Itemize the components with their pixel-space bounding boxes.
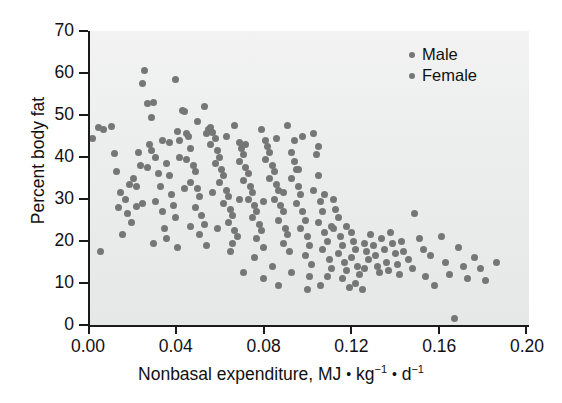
data-point bbox=[271, 196, 278, 203]
data-point bbox=[427, 252, 434, 259]
data-point bbox=[194, 118, 201, 125]
data-point bbox=[157, 183, 164, 190]
data-point bbox=[471, 254, 478, 261]
data-point bbox=[192, 168, 199, 175]
data-point bbox=[280, 240, 287, 247]
data-point bbox=[367, 231, 374, 238]
legend-item-male: Male bbox=[409, 44, 477, 65]
data-point bbox=[144, 164, 151, 171]
data-point bbox=[266, 175, 273, 182]
legend-label: Male bbox=[422, 45, 458, 64]
data-point bbox=[284, 122, 291, 129]
data-point bbox=[339, 242, 346, 249]
scatter-plot-figure: Percent body fat 010203040506070 0.000.0… bbox=[0, 0, 562, 403]
data-point bbox=[262, 156, 269, 163]
data-point bbox=[269, 263, 276, 270]
y-axis-tick-label: 70 bbox=[0, 20, 74, 41]
x-axis-tick-label: 0.16 bbox=[422, 336, 456, 357]
data-point bbox=[288, 269, 295, 276]
data-point bbox=[194, 185, 201, 192]
data-point bbox=[242, 141, 249, 148]
data-point bbox=[155, 170, 162, 177]
data-point bbox=[482, 277, 489, 284]
data-point bbox=[385, 267, 392, 274]
data-point bbox=[291, 137, 298, 144]
data-point bbox=[119, 231, 126, 238]
data-point bbox=[299, 208, 306, 215]
data-point bbox=[209, 189, 216, 196]
data-point bbox=[387, 229, 394, 236]
data-point bbox=[166, 172, 173, 179]
data-point bbox=[455, 244, 462, 251]
data-point bbox=[381, 246, 388, 253]
data-point bbox=[220, 200, 227, 207]
data-point bbox=[315, 143, 322, 150]
data-point bbox=[383, 259, 390, 266]
data-point bbox=[214, 225, 221, 232]
data-point bbox=[159, 208, 166, 215]
data-point bbox=[161, 225, 168, 232]
data-point bbox=[172, 76, 179, 83]
data-point bbox=[398, 238, 405, 245]
data-point bbox=[196, 231, 203, 238]
data-point bbox=[326, 256, 333, 263]
data-point bbox=[396, 271, 403, 278]
data-point bbox=[181, 185, 188, 192]
data-point bbox=[337, 233, 344, 240]
x-axis-tick bbox=[438, 325, 440, 334]
data-point bbox=[343, 267, 350, 274]
data-point bbox=[288, 149, 295, 156]
data-point bbox=[295, 166, 302, 173]
x-axis-title-exponent-1: −1 bbox=[374, 363, 387, 375]
data-point bbox=[124, 210, 131, 217]
x-axis-tick bbox=[175, 325, 177, 334]
data-point bbox=[308, 261, 315, 268]
data-point bbox=[416, 235, 423, 242]
data-point bbox=[271, 168, 278, 175]
legend-marker-icon bbox=[409, 52, 415, 58]
data-point bbox=[163, 235, 170, 242]
data-point bbox=[212, 160, 219, 167]
data-point bbox=[280, 208, 287, 215]
data-point bbox=[130, 175, 137, 182]
data-point bbox=[321, 191, 328, 198]
data-point bbox=[335, 250, 342, 257]
y-axis-tick bbox=[79, 72, 88, 74]
data-point bbox=[249, 189, 256, 196]
data-point bbox=[139, 200, 146, 207]
data-point bbox=[280, 189, 287, 196]
data-point bbox=[286, 248, 293, 255]
data-point bbox=[275, 217, 282, 224]
x-axis-title-unit-2: d bbox=[402, 364, 412, 384]
data-point bbox=[245, 196, 252, 203]
y-axis-tick bbox=[79, 198, 88, 200]
data-point bbox=[240, 151, 247, 158]
legend-item-female: Female bbox=[409, 65, 477, 86]
data-point bbox=[137, 162, 144, 169]
y-axis-tick bbox=[79, 282, 88, 284]
data-point bbox=[324, 238, 331, 245]
legend-label: Female bbox=[422, 66, 477, 85]
x-axis-title: Nonbasal expenditure, MJ • kg−1 • d−1 bbox=[0, 363, 562, 385]
data-point bbox=[273, 135, 280, 142]
data-point bbox=[100, 126, 107, 133]
data-point bbox=[260, 198, 267, 205]
y-axis-tick-label: 20 bbox=[0, 230, 74, 251]
data-point bbox=[150, 99, 157, 106]
data-point bbox=[335, 214, 342, 221]
data-point bbox=[236, 196, 243, 203]
data-point bbox=[245, 170, 252, 177]
data-point bbox=[108, 123, 115, 130]
data-point bbox=[227, 248, 234, 255]
data-point bbox=[438, 233, 445, 240]
data-point bbox=[317, 282, 324, 289]
data-point bbox=[356, 271, 363, 278]
data-point bbox=[317, 198, 324, 205]
data-point bbox=[223, 133, 230, 140]
data-point bbox=[460, 263, 467, 270]
data-point bbox=[319, 246, 326, 253]
data-point bbox=[372, 252, 379, 259]
data-point bbox=[126, 181, 133, 188]
x-axis-tick bbox=[263, 325, 265, 334]
y-axis-tick-label: 0 bbox=[0, 314, 74, 335]
